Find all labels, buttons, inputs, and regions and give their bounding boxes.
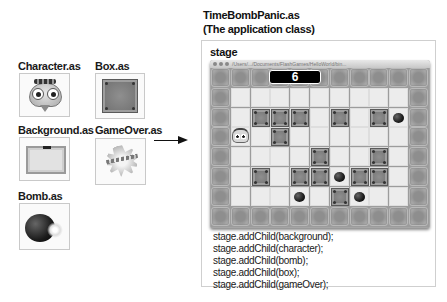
floor-tile <box>389 167 408 186</box>
floor-tile <box>290 127 309 146</box>
wall-tile <box>251 207 270 226</box>
game-board: 6 <box>211 68 429 227</box>
floor-tile <box>350 108 369 127</box>
floor-tile <box>251 147 270 166</box>
floor-tile <box>310 108 329 127</box>
floor-tile <box>330 88 349 107</box>
code-line: stage.addChild(box); <box>213 267 299 278</box>
floor-tile <box>310 127 329 146</box>
wall-tile <box>211 167 230 186</box>
window-titlebar: /Users/.../Documents/FlashGames/HelloWor… <box>210 60 430 68</box>
bomb-icon <box>334 172 345 182</box>
asset-label-character: Character.as <box>18 60 80 72</box>
floor-tile <box>330 147 349 166</box>
floor-tile <box>389 88 408 107</box>
wall-tile <box>290 207 309 226</box>
app-class-subtitle: (The application class) <box>203 23 315 35</box>
box-icon <box>331 109 349 127</box>
floor-tile <box>270 167 289 186</box>
bomb-thumbnail <box>19 203 70 250</box>
box-icon <box>271 109 289 127</box>
wall-tile <box>251 68 270 87</box>
floor-tile <box>389 127 408 146</box>
box-icon <box>252 168 270 186</box>
character-thumbnail <box>19 73 70 117</box>
box-thumbnail <box>95 73 145 119</box>
box-icon <box>291 168 309 186</box>
app-class-title: TimeBombPanic.as <box>203 9 299 21</box>
code-line: stage.addChild(background); <box>213 231 333 242</box>
wall-tile <box>409 68 428 87</box>
asset-label-bomb: Bomb.as <box>18 190 62 202</box>
floor-tile <box>290 88 309 107</box>
close-icon[interactable] <box>213 62 217 66</box>
code-line: stage.addChild(gameOver); <box>213 279 328 290</box>
code-line: stage.addChild(bomb); <box>213 255 308 266</box>
floor-tile <box>350 147 369 166</box>
wall-tile <box>369 68 388 87</box>
floor-tile <box>270 88 289 107</box>
floor-tile <box>310 88 329 107</box>
wall-tile <box>330 68 349 87</box>
wall-tile <box>211 127 230 146</box>
wall-tile <box>369 207 388 226</box>
box-icon <box>252 109 270 127</box>
box-icon <box>370 148 388 166</box>
wall-tile <box>409 187 428 206</box>
wall-tile <box>211 207 230 226</box>
bomb-icon <box>294 192 305 202</box>
wall-tile <box>409 108 428 127</box>
game-window: /Users/.../Documents/FlashGames/HelloWor… <box>210 60 430 228</box>
floor-tile <box>231 147 250 166</box>
box-icon <box>291 109 309 127</box>
floor-tile <box>231 167 250 186</box>
floor-tile <box>369 127 388 146</box>
wall-tile <box>409 207 428 226</box>
bomb-icon <box>393 113 404 123</box>
wall-tile <box>350 68 369 87</box>
wall-tile <box>270 207 289 226</box>
floor-tile <box>389 147 408 166</box>
floor-tile <box>350 88 369 107</box>
floor-tile <box>369 88 388 107</box>
asset-label-game-over: GameOver.as <box>95 124 162 136</box>
wall-tile <box>409 167 428 186</box>
wall-tile <box>211 187 230 206</box>
box-icon <box>370 109 388 127</box>
wall-tile <box>211 88 230 107</box>
background-icon <box>26 146 66 174</box>
wall-tile <box>389 207 408 226</box>
box-icon <box>311 168 329 186</box>
code-line: stage.addChild(character); <box>213 243 323 254</box>
wall-tile <box>330 207 349 226</box>
floor-tile <box>290 147 309 166</box>
floor-tile <box>231 88 250 107</box>
timer-display: 6 <box>269 70 321 84</box>
window-path: /Users/.../Documents/FlashGames/HelloWor… <box>232 61 346 67</box>
stage-label: stage <box>210 46 237 58</box>
minimize-icon[interactable] <box>219 62 223 66</box>
wall-tile <box>409 147 428 166</box>
floor-tile <box>231 187 250 206</box>
wall-tile <box>389 68 408 87</box>
asset-label-box: Box.as <box>95 60 129 72</box>
wall-tile <box>231 68 250 87</box>
floor-tile <box>251 127 270 146</box>
character-icon <box>232 128 249 143</box>
wall-tile <box>310 207 329 226</box>
game-over-thumbnail <box>95 138 146 185</box>
wall-tile <box>350 207 369 226</box>
floor-tile <box>251 88 270 107</box>
wall-tile <box>211 147 230 166</box>
asset-label-background: Background.as <box>18 124 94 136</box>
floor-tile <box>251 187 270 206</box>
floor-tile <box>310 187 329 206</box>
floor-tile <box>369 187 388 206</box>
floor-tile <box>350 127 369 146</box>
floor-tile <box>389 187 408 206</box>
background-thumbnail <box>19 137 70 181</box>
box-icon <box>370 168 388 186</box>
wall-tile <box>231 207 250 226</box>
floor-tile <box>270 147 289 166</box>
zoom-icon[interactable] <box>225 62 229 66</box>
